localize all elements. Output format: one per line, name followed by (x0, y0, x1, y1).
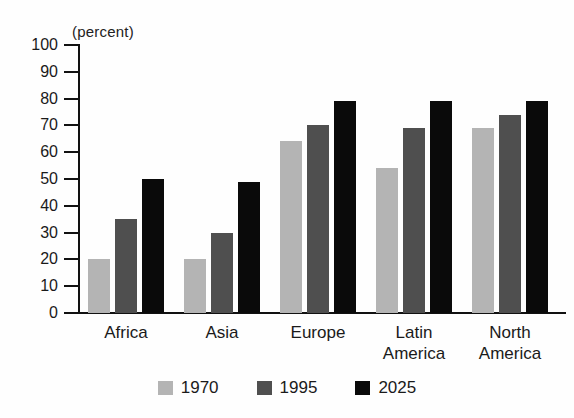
bar-group (88, 45, 164, 313)
bar-2025-north-america[interactable] (526, 101, 548, 313)
bar-1995-latin-america[interactable] (403, 128, 425, 313)
legend-swatch-1970 (158, 381, 173, 395)
legend-label-1970: 1970 (181, 378, 219, 398)
x-axis-label-north-america: North America (450, 322, 570, 364)
legend-swatch-1995 (257, 381, 272, 395)
bar-1995-africa[interactable] (115, 219, 137, 313)
legend-label-1995: 1995 (280, 378, 318, 398)
bar-group (472, 45, 548, 313)
bar-2025-latin-america[interactable] (430, 101, 452, 313)
legend-item-1970[interactable]: 1970 (158, 378, 219, 398)
legend-item-1995[interactable]: 1995 (257, 378, 318, 398)
legend: 197019952025 (0, 378, 574, 398)
bar-2025-asia[interactable] (238, 182, 260, 313)
bar-group (184, 45, 260, 313)
bar-1995-north-america[interactable] (499, 115, 521, 313)
bar-2025-europe[interactable] (334, 101, 356, 313)
bar-1995-asia[interactable] (211, 233, 233, 313)
bar-2025-africa[interactable] (142, 179, 164, 313)
bar-1970-latin-america[interactable] (376, 168, 398, 313)
bar-group (280, 45, 356, 313)
bar-group (376, 45, 452, 313)
chart-page: (percent) 1009080706050403020100 AfricaA… (0, 0, 574, 418)
bar-1970-europe[interactable] (280, 141, 302, 313)
legend-label-2025: 2025 (378, 378, 416, 398)
bar-1970-africa[interactable] (88, 259, 110, 313)
bar-1995-europe[interactable] (307, 125, 329, 313)
legend-item-2025[interactable]: 2025 (355, 378, 416, 398)
bar-1970-asia[interactable] (184, 259, 206, 313)
legend-swatch-2025 (355, 381, 370, 395)
bar-1970-north-america[interactable] (472, 128, 494, 313)
